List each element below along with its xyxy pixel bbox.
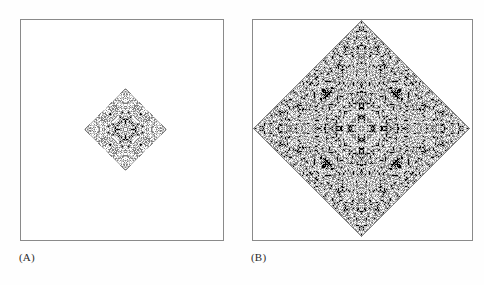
panel-a-frame [20, 19, 224, 241]
pattern-b-canvas [253, 20, 470, 237]
pattern-a-canvas [84, 88, 167, 171]
panel-a-label: (A) [19, 251, 35, 263]
panel-b-frame [252, 19, 473, 241]
panel-b-label: (B) [251, 251, 266, 263]
figure-root: (A) (B) [0, 0, 484, 285]
